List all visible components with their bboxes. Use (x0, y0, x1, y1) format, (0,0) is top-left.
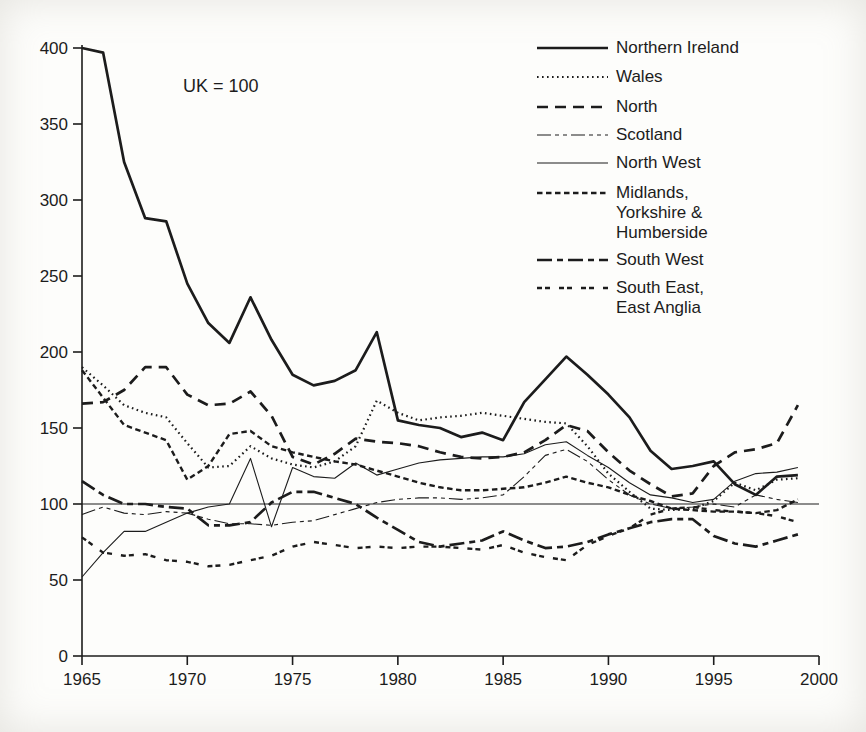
legend-label-scotland: Scotland (616, 125, 682, 144)
x-tick-label: 1975 (274, 670, 312, 689)
legend-item-north-west: North West (537, 153, 701, 172)
y-tick-label: 50 (49, 571, 68, 590)
series-line-south-west (82, 481, 798, 548)
legend: Northern IrelandWalesNorthScotlandNorth … (537, 38, 739, 317)
x-tick-label: 2000 (800, 670, 838, 689)
y-tick-label: 100 (40, 495, 68, 514)
y-tick-label: 0 (59, 647, 68, 666)
legend-item-wales: Wales (537, 67, 663, 86)
series-line-wales (82, 367, 798, 510)
legend-label-south-east-east-anglia: South East,East Anglia (616, 278, 704, 317)
y-tick-label: 350 (40, 115, 68, 134)
y-tick-label: 200 (40, 343, 68, 362)
y-tick-label: 300 (40, 191, 68, 210)
x-tick-label: 1965 (63, 670, 101, 689)
legend-item-south-west: South West (537, 250, 704, 269)
y-tick-label: 400 (40, 39, 68, 58)
legend-label-wales: Wales (616, 67, 663, 86)
legend-label-northern-ireland: Northern Ireland (616, 38, 739, 57)
series-line-northern-ireland (82, 48, 798, 495)
annotation-uk-100: UK = 100 (183, 76, 259, 96)
y-tick-label: 150 (40, 419, 68, 438)
legend-label-south-west: South West (616, 250, 704, 269)
x-tick-label: 1990 (590, 670, 628, 689)
legend-label-midlands-yorkshire-humberside: Midlands,Yorkshire &Humberside (616, 183, 708, 242)
series-line-midlands-yorkshire-humberside (82, 370, 798, 513)
scanned-chart-page: 0501001502002503003504001965197019751980… (0, 0, 866, 732)
legend-item-midlands-yorkshire-humberside: Midlands,Yorkshire &Humberside (537, 183, 708, 242)
line-chart: 0501001502002503003504001965197019751980… (0, 0, 866, 732)
legend-item-northern-ireland: Northern Ireland (537, 38, 739, 57)
legend-item-south-east-east-anglia: South East,East Anglia (537, 278, 704, 317)
series-line-south-east-east-anglia (82, 507, 798, 566)
y-tick-label: 250 (40, 267, 68, 286)
legend-label-north-west: North West (616, 153, 701, 172)
legend-label-north: North (616, 97, 658, 116)
x-tick-label: 1995 (695, 670, 733, 689)
x-tick-label: 1985 (484, 670, 522, 689)
legend-item-north: North (537, 97, 658, 116)
legend-item-scotland: Scotland (537, 125, 682, 144)
x-tick-label: 1970 (168, 670, 206, 689)
x-tick-label: 1980 (379, 670, 417, 689)
series-line-north (82, 367, 798, 496)
